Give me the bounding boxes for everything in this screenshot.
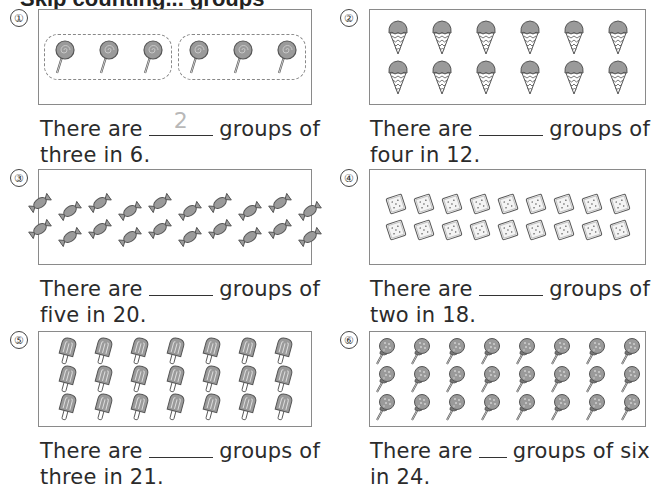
wrapped-candy-icon [177, 227, 203, 247]
cracker-icon [553, 193, 575, 215]
cracker-icon [441, 219, 463, 241]
wrapped-candy-icon [87, 219, 113, 239]
lollipop-icon [275, 39, 297, 75]
problem-sentence: There are groups of three in 21. [40, 435, 320, 490]
text-after: groups of [219, 276, 320, 302]
problem-number: ⑤ [10, 331, 28, 349]
picture-box [369, 9, 646, 105]
wrapped-candy-icon [267, 219, 293, 239]
lollipop-ball-icon [409, 365, 431, 393]
wrapped-candy-icon [207, 219, 233, 239]
wrapped-candy-icon [27, 219, 53, 239]
cracker-icon [385, 219, 407, 241]
popsicle-icon [237, 393, 257, 421]
text-after: groups of [219, 116, 320, 142]
lollipop-icon [187, 39, 209, 75]
text-line2: three in 21. [40, 464, 320, 490]
popsicle-icon [273, 365, 293, 393]
ice-cream-cone-icon [519, 59, 541, 95]
lollipop-ball-icon [584, 393, 606, 421]
cracker-icon [441, 193, 463, 215]
ice-cream-cone-icon [563, 19, 585, 55]
items-grid [57, 337, 293, 421]
popsicle-icon [165, 337, 185, 365]
text-line2: five in 20. [40, 302, 320, 328]
problem-5: ⑤ There are groups of three in 21. [10, 331, 320, 491]
popsicle-icon [237, 337, 257, 365]
wrapped-candy-icon [57, 227, 83, 247]
answer-blank[interactable] [479, 273, 544, 296]
wrapped-candy-icon [147, 193, 173, 213]
answer-blank[interactable]: 2 [149, 113, 214, 136]
wrapped-candy-icon [237, 227, 263, 247]
cracker-icon [609, 219, 631, 241]
cracker-icon [497, 219, 519, 241]
popsicle-icon [201, 365, 221, 393]
text-before: There are [40, 438, 143, 464]
ice-cream-cone-icon [475, 19, 497, 55]
ice-cream-cone-icon [607, 59, 629, 95]
popsicle-icon [129, 365, 149, 393]
problem-sentence: There are groups of six in 24. [370, 435, 650, 490]
answer-blank[interactable] [479, 113, 544, 136]
cracker-icon [581, 219, 603, 241]
picture-box [369, 169, 646, 265]
text-before: There are [40, 276, 143, 302]
lollipop-ball-icon [514, 393, 536, 421]
lollipop-ball-icon [479, 337, 501, 365]
lollipop-icon [231, 39, 253, 75]
lollipop-ball-icon [514, 337, 536, 365]
items-grid [385, 193, 631, 241]
problem-sentence: There are 2 groups of three in 6. [40, 113, 320, 168]
answer-blank[interactable] [479, 435, 507, 458]
problem-number: ⑥ [340, 331, 358, 349]
problem-2: ② There are groups of four in 12. [340, 9, 650, 169]
popsicle-icon [273, 393, 293, 421]
lollipop-icon [53, 39, 75, 75]
wrapped-candy-icon [237, 201, 263, 221]
picture-box [38, 9, 312, 105]
items-grid [387, 19, 629, 95]
lollipop-ball-icon [374, 393, 396, 421]
lollipop-ball-icon [444, 393, 466, 421]
popsicle-icon [237, 365, 257, 393]
problem-sentence: There are groups of five in 20. [40, 273, 320, 328]
text-line2: three in 6. [40, 142, 320, 168]
ice-cream-cone-icon [607, 19, 629, 55]
lollipop-icon [97, 39, 119, 75]
lollipop-ball-icon [479, 393, 501, 421]
dashed-group-outline [44, 34, 172, 80]
text-after: groups of [219, 438, 320, 464]
lollipop-ball-icon [619, 365, 641, 393]
cracker-icon [525, 219, 547, 241]
answer-blank[interactable] [149, 435, 214, 458]
popsicle-icon [57, 337, 77, 365]
problem-4: ④ There are groups of two in 18. [340, 169, 650, 329]
answer-blank[interactable] [149, 273, 214, 296]
text-before: There are [370, 276, 473, 302]
cracker-icon [413, 219, 435, 241]
problem-number: ① [10, 9, 28, 27]
ice-cream-cone-icon [387, 59, 409, 95]
cracker-icon [469, 193, 491, 215]
problem-sentence: There are groups of four in 12. [370, 113, 650, 168]
popsicle-icon [57, 365, 77, 393]
wrapped-candy-icon [177, 201, 203, 221]
lollipop-ball-icon [549, 337, 571, 365]
wrapped-candy-icon [27, 193, 53, 213]
lollipop-ball-icon [479, 365, 501, 393]
cracker-icon [469, 219, 491, 241]
ice-cream-cone-icon [563, 59, 585, 95]
text-before: There are [370, 438, 473, 464]
wrapped-candy-icon [117, 201, 143, 221]
wrapped-candy-icon [207, 193, 233, 213]
text-after: groups of six [513, 438, 650, 464]
popsicle-icon [165, 393, 185, 421]
lollipop-ball-icon [444, 365, 466, 393]
problem-number: ③ [10, 169, 28, 187]
text-line2: four in 12. [370, 142, 650, 168]
wrapped-candy-icon [57, 201, 83, 221]
picture-box [369, 331, 646, 427]
wrapped-candy-icon [87, 193, 113, 213]
wrapped-candy-icon [297, 227, 323, 247]
